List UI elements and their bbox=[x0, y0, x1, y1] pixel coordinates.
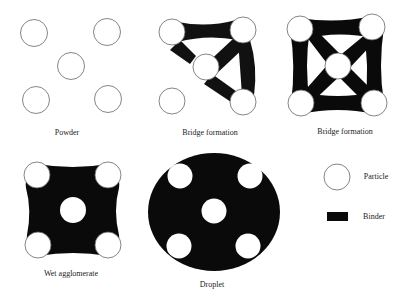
panel-wet-agglomerate bbox=[24, 162, 121, 258]
particle-icon bbox=[230, 89, 256, 115]
particle-icon bbox=[95, 232, 121, 258]
particle-icon bbox=[238, 164, 263, 189]
particle-legend-icon bbox=[324, 164, 350, 190]
panel-label-powder: Powder bbox=[55, 128, 79, 137]
particle-icon bbox=[230, 17, 256, 43]
particle-icon bbox=[159, 19, 185, 45]
granulation-diagram bbox=[0, 0, 409, 300]
particle-icon bbox=[202, 199, 227, 224]
particle-icon bbox=[94, 19, 121, 46]
particle-icon bbox=[21, 20, 48, 47]
particle-icon bbox=[236, 234, 261, 259]
particle-icon bbox=[95, 86, 122, 113]
particle-icon bbox=[288, 90, 314, 116]
particle-icon bbox=[359, 14, 385, 40]
particle-icon bbox=[58, 53, 85, 80]
panel-bridge-formation-1 bbox=[159, 17, 256, 115]
particle-icon bbox=[95, 162, 121, 188]
panel-label-bridge-formation-1: Bridge formation bbox=[182, 128, 237, 137]
legend-label-binder: Binder bbox=[363, 212, 385, 221]
particle-icon bbox=[361, 90, 387, 116]
panel-bridge-formation-2 bbox=[287, 14, 387, 116]
legend bbox=[324, 164, 350, 221]
particle-icon bbox=[60, 197, 86, 223]
particle-icon bbox=[159, 88, 185, 114]
panel-droplet bbox=[148, 153, 280, 271]
particle-icon bbox=[167, 234, 192, 259]
binder-legend-icon bbox=[327, 212, 348, 221]
particle-icon bbox=[193, 54, 219, 80]
particle-icon bbox=[168, 164, 193, 189]
panel-label-bridge-formation-2: Bridge formation bbox=[317, 127, 372, 136]
particle-icon bbox=[25, 232, 51, 258]
panel-label-wet-agglomerate: Wet agglomerate bbox=[44, 269, 98, 278]
particle-icon bbox=[24, 162, 50, 188]
legend-label-particle: Particle bbox=[364, 172, 388, 181]
particle-icon bbox=[287, 16, 313, 42]
particle-icon bbox=[325, 53, 351, 79]
particle-icon bbox=[23, 87, 50, 114]
panel-label-droplet: Droplet bbox=[200, 280, 224, 289]
panel-powder bbox=[21, 19, 122, 114]
